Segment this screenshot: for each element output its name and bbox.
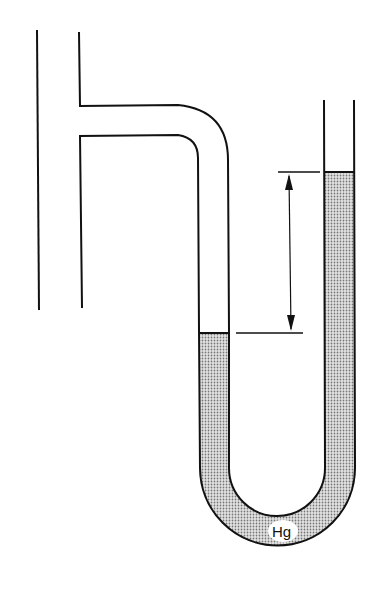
height-dimension-line — [289, 176, 291, 329]
pipe-outer-contour — [79, 32, 229, 330]
mercury-column — [199, 172, 355, 545]
pipe-inner-contour — [80, 135, 199, 330]
manometer-diagram: Hg — [0, 0, 390, 613]
arrow-down-icon — [287, 315, 295, 331]
vessel-wall-left — [37, 30, 39, 310]
arrow-up-icon — [285, 174, 293, 190]
u-tube-inner-wall — [229, 100, 325, 516]
fluid-label: Hg — [272, 523, 291, 540]
